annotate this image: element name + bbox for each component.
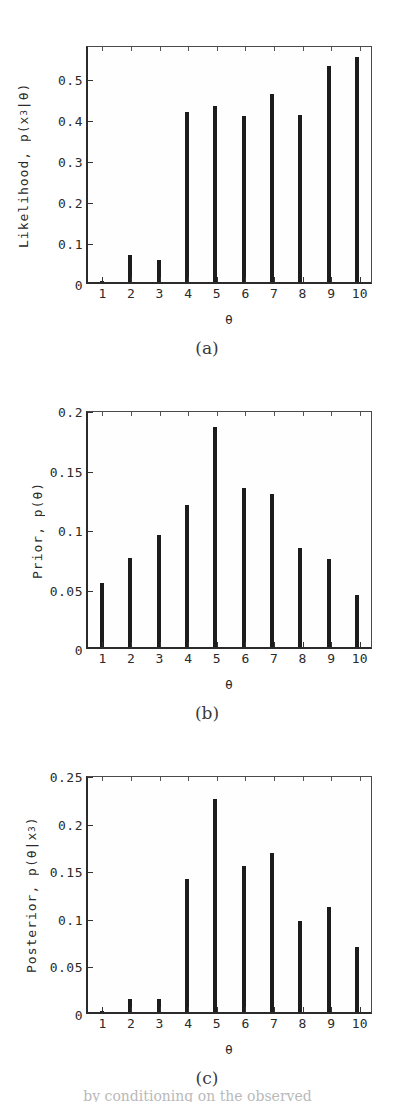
- x-axis-tick-label: 6: [241, 286, 249, 301]
- bar: [242, 866, 246, 1012]
- y-axis-tick: [88, 80, 93, 81]
- y-axis-tick: [88, 872, 93, 873]
- x-axis-tick: [188, 1007, 189, 1012]
- x-axis-tick-label: 5: [213, 651, 221, 666]
- y-axis-tick-label: 0.3: [58, 154, 83, 169]
- y-axis-tick: [88, 162, 93, 163]
- bar: [185, 879, 189, 1012]
- x-axis-tick: [160, 642, 161, 647]
- y-axis-tick-label: 0.15: [50, 865, 83, 880]
- bar: [270, 494, 274, 648]
- y-axis-tick-label: 0.15: [50, 464, 83, 479]
- bar: [100, 583, 104, 647]
- bar: [327, 559, 331, 647]
- x-axis-tick-label: 4: [184, 286, 192, 301]
- x-axis-tick: [102, 277, 103, 282]
- y-axis-tick: [88, 591, 93, 592]
- bar: [128, 558, 132, 647]
- x-axis-tick-label: 9: [327, 286, 335, 301]
- x-axis-tick-top: [331, 777, 332, 781]
- panel-caption: (a): [195, 338, 218, 358]
- y-axis-tick-label: 0.1: [58, 912, 83, 927]
- x-axis-tick-top: [331, 47, 332, 51]
- x-axis-tick-top: [102, 777, 103, 781]
- x-axis-tick: [245, 642, 246, 647]
- x-axis-tick-top: [245, 47, 246, 51]
- x-axis-tick-top: [102, 412, 103, 416]
- y-axis-tick: [88, 203, 93, 204]
- plot-area: 00.050.10.150.212345678910: [86, 411, 372, 649]
- x-axis-tick-label: 8: [299, 1016, 307, 1031]
- bar: [355, 595, 359, 647]
- x-axis-tick-label: 5: [213, 1016, 221, 1031]
- y-axis-tick: [88, 472, 93, 473]
- x-axis-tick-label: 10: [352, 286, 368, 301]
- bar: [327, 66, 331, 282]
- x-axis-tick-top: [160, 412, 161, 416]
- y-axis-label-subscript: 3: [27, 826, 37, 832]
- x-axis-tick-top: [274, 412, 275, 416]
- x-axis-tick: [360, 642, 361, 647]
- x-axis-tick: [102, 642, 103, 647]
- x-axis-label: θ: [225, 312, 233, 327]
- bar: [327, 907, 331, 1012]
- x-axis-tick-top: [303, 777, 304, 781]
- x-axis-tick: [160, 277, 161, 282]
- x-axis-tick-label: 2: [127, 1016, 135, 1031]
- bar-series: [88, 47, 371, 282]
- x-axis-tick-top: [360, 777, 361, 781]
- y-axis-label: Prior, p(θ): [30, 411, 45, 649]
- cut-off-body-text: by conditioning on the observed: [0, 1088, 395, 1102]
- y-axis-tick-label: 0.25: [50, 770, 83, 785]
- x-axis-tick-label: 1: [98, 1016, 106, 1031]
- y-axis-tick: [88, 825, 93, 826]
- y-axis-tick: [88, 531, 93, 532]
- x-axis-tick-top: [217, 777, 218, 781]
- x-axis-tick: [160, 1007, 161, 1012]
- x-axis-label: θ: [225, 677, 233, 692]
- x-axis-tick-top: [274, 47, 275, 51]
- x-axis-tick: [360, 1007, 361, 1012]
- plot-area: 00.050.10.150.20.2512345678910: [86, 776, 372, 1014]
- bar: [185, 505, 189, 647]
- x-axis-tick-top: [217, 47, 218, 51]
- bar: [298, 921, 302, 1012]
- x-axis-tick-label: 7: [270, 1016, 278, 1031]
- x-axis-tick-top: [331, 412, 332, 416]
- y-axis-tick: [88, 412, 93, 413]
- x-axis-tick-label: 7: [270, 651, 278, 666]
- bar: [213, 106, 217, 282]
- plot-area: 00.10.20.30.40.512345678910: [86, 46, 372, 284]
- y-axis-tick-label: 0.05: [50, 583, 83, 598]
- x-axis-tick: [131, 277, 132, 282]
- bar-series: [88, 412, 371, 647]
- x-axis-tick: [331, 277, 332, 282]
- y-axis-label-prefix: Posterior, p(θ|x: [24, 832, 39, 973]
- y-axis-tick-label: 0.4: [58, 113, 83, 128]
- x-axis-tick: [188, 277, 189, 282]
- x-axis-tick: [274, 277, 275, 282]
- y-axis-tick: [88, 121, 93, 122]
- y-axis-tick-label: 0: [75, 278, 83, 293]
- x-axis-tick-top: [303, 412, 304, 416]
- y-axis-label-subscript: 3: [19, 109, 29, 115]
- bar: [298, 115, 302, 282]
- x-axis-tick: [331, 1007, 332, 1012]
- x-axis-tick-top: [303, 47, 304, 51]
- x-axis-tick-top: [245, 777, 246, 781]
- y-axis-tick: [88, 777, 93, 778]
- x-axis-label: θ: [225, 1042, 233, 1057]
- bar: [157, 535, 161, 647]
- x-axis-tick-top: [360, 47, 361, 51]
- bar-series: [88, 777, 371, 1012]
- x-axis-tick: [303, 642, 304, 647]
- x-axis-tick-label: 3: [156, 651, 164, 666]
- y-axis-tick: [88, 244, 93, 245]
- x-axis-tick-label: 6: [241, 1016, 249, 1031]
- x-axis-tick-label: 9: [327, 651, 335, 666]
- x-axis-tick-label: 6: [241, 651, 249, 666]
- y-axis-tick-label: 0.2: [58, 405, 83, 420]
- x-axis-tick-label: 3: [156, 286, 164, 301]
- bar: [242, 488, 246, 647]
- x-axis-tick-label: 4: [184, 651, 192, 666]
